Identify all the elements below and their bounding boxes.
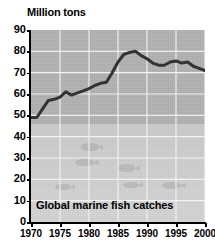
x-tick-mark xyxy=(205,223,207,227)
x-tick-mark xyxy=(118,223,120,227)
y-tick-mark xyxy=(27,73,31,75)
x-tick-label: 1970 xyxy=(16,228,46,239)
x-tick-mark xyxy=(176,223,178,227)
y-tick-label: 40 xyxy=(2,130,26,142)
y-tick-mark xyxy=(27,30,31,32)
x-tick-label: 1990 xyxy=(132,228,162,239)
y-tick-label: 70 xyxy=(2,66,26,78)
chart-container: Million tons 0102030405060708090 1970197… xyxy=(0,0,215,244)
y-tick-label: 30 xyxy=(2,151,26,163)
y-tick-mark xyxy=(27,201,31,203)
x-tick-label: 1995 xyxy=(161,228,191,239)
y-tick-label: 50 xyxy=(2,108,26,120)
y-tick-mark xyxy=(27,179,31,181)
x-tick-mark xyxy=(147,223,149,227)
y-tick-mark xyxy=(27,158,31,160)
y-tick-label: 80 xyxy=(2,44,26,56)
data-series-line xyxy=(31,30,205,222)
y-tick-mark xyxy=(27,51,31,53)
y-tick-label: 10 xyxy=(2,194,26,206)
y-axis-line xyxy=(29,30,31,223)
chart-caption: Global marine fish catches xyxy=(36,199,173,211)
y-axis-title: Million tons xyxy=(27,6,86,18)
x-tick-mark xyxy=(60,223,62,227)
x-tick-label: 2000 xyxy=(190,228,215,239)
y-tick-label: 20 xyxy=(2,172,26,184)
y-tick-label: 90 xyxy=(2,23,26,35)
x-tick-label: 1985 xyxy=(103,228,133,239)
x-tick-label: 1975 xyxy=(45,228,75,239)
x-tick-mark xyxy=(31,223,33,227)
y-tick-mark xyxy=(27,137,31,139)
x-tick-label: 1980 xyxy=(74,228,104,239)
y-tick-label: 0 xyxy=(2,215,26,227)
x-tick-mark xyxy=(89,223,91,227)
y-tick-mark xyxy=(27,94,31,96)
y-tick-mark xyxy=(27,115,31,117)
y-tick-label: 60 xyxy=(2,87,26,99)
plot-area xyxy=(31,30,205,222)
